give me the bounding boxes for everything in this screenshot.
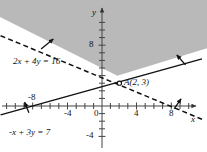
arrow-solid-upper-right <box>177 55 186 65</box>
x-tick-label-neg8: -8 <box>28 93 36 102</box>
x-tick-label-neg4: -4 <box>64 109 72 118</box>
intersection-point-label: A(2, 3) <box>124 78 149 87</box>
y-axis-label: y <box>92 8 96 17</box>
dashed-line-equation-label: 2x + 4y = 16 <box>13 57 60 66</box>
inequality-graph-figure: y x 8 -4 -8 -4 0 4 8 2x + 4y = 16 -x + 3… <box>0 0 207 152</box>
solid-line-equation-label: -x + 3y = 7 <box>9 128 50 137</box>
y-tick-label-neg4: -4 <box>86 131 94 140</box>
y-tick-label-8: 8 <box>89 40 94 49</box>
x-tick-label-4: 4 <box>134 109 139 118</box>
intersection-point-marker <box>117 81 121 85</box>
x-tick-label-8: 8 <box>169 109 174 118</box>
x-axis-label: x <box>191 115 195 124</box>
x-tick-label-0: 0 <box>94 109 99 118</box>
arrow-dashed-upper-left <box>41 39 53 49</box>
